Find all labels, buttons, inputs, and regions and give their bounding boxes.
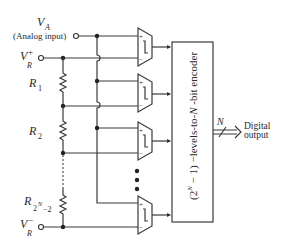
svg-text:−: − bbox=[139, 102, 143, 110]
va-label: V A bbox=[37, 15, 50, 32]
svg-text:R: R bbox=[23, 194, 32, 208]
vr-minus-label: V − R bbox=[20, 215, 33, 238]
vr-plus-label: V + R bbox=[20, 47, 33, 70]
svg-text:+: + bbox=[139, 127, 143, 135]
r1-label: R 1 bbox=[28, 76, 42, 93]
va-terminal bbox=[74, 34, 79, 39]
svg-text:R: R bbox=[28, 76, 37, 90]
svg-text:+: + bbox=[139, 79, 143, 87]
svg-text:2: 2 bbox=[33, 204, 37, 213]
svg-text:R: R bbox=[26, 61, 32, 70]
ellipsis-dots bbox=[135, 169, 139, 191]
comparator-n: + − bbox=[138, 196, 171, 234]
encoder-label: (2N − 1) −levels-to-N -bit encoder bbox=[186, 52, 200, 200]
svg-text:+: + bbox=[139, 33, 143, 41]
vr-minus-terminal bbox=[39, 225, 44, 230]
svg-text:R: R bbox=[28, 124, 37, 138]
flash-adc-diagram: V A (Analog input) V + R V − R bbox=[0, 0, 282, 250]
svg-text:−: − bbox=[28, 215, 33, 225]
svg-text:−: − bbox=[139, 150, 143, 158]
comparator-3: + − bbox=[138, 122, 171, 160]
svg-text:−: − bbox=[139, 56, 143, 64]
bus-width-label: N bbox=[216, 116, 225, 127]
analog-input-label: (Analog input) bbox=[13, 31, 66, 41]
svg-text:+: + bbox=[28, 47, 33, 57]
r2-label: R 2 bbox=[28, 124, 42, 141]
svg-text:−: − bbox=[139, 224, 143, 232]
svg-text:1: 1 bbox=[38, 84, 42, 93]
output-bus: N Digital output bbox=[213, 116, 271, 140]
vr-plus-terminal bbox=[39, 56, 44, 61]
digital-output-label-2: output bbox=[244, 130, 269, 140]
svg-text:R: R bbox=[26, 229, 32, 238]
svg-text:2: 2 bbox=[38, 132, 42, 141]
va-bus bbox=[79, 34, 138, 203]
comparator-2: + − bbox=[138, 74, 171, 112]
r-last-label: R 2 N −2 bbox=[23, 194, 52, 214]
svg-text:−2: −2 bbox=[43, 205, 52, 214]
encoder-block: (2N − 1) −levels-to-N -bit encoder bbox=[172, 42, 213, 222]
comparator-1: + − bbox=[138, 28, 171, 66]
svg-text:+: + bbox=[139, 201, 143, 209]
